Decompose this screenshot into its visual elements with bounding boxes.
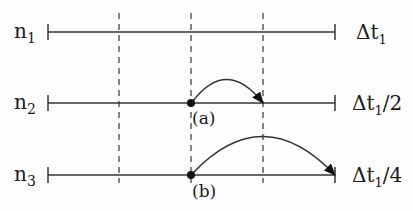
arc-arrow-b [193,136,335,175]
level-label-n2: n2 [14,90,36,117]
timestep-diagram: n1 n2 n3 Δt1 Δt1/2 Δt1/4 (a) (b) [0,0,413,211]
start-dot-b [187,171,195,179]
timestep-labels: Δt1 Δt1/2 Δt1/4 [352,20,402,190]
level-labels: n1 n2 n3 [14,19,36,189]
timestep-label-n2: Δt1/2 [352,91,402,118]
arc-arrow-a [193,79,263,103]
level-label-n3: n3 [14,162,36,189]
level-label-n1: n1 [14,19,36,46]
arrow-label-b: (b) [192,181,216,201]
timestep-label-n3: Δt1/4 [352,163,402,190]
start-dot-a [187,99,195,107]
timestep-label-n1: Δt1 [356,20,387,47]
arrow-label-a: (a) [192,108,215,128]
arrows [187,79,335,179]
arrow-b [187,136,335,179]
dashed-guides [119,13,263,183]
